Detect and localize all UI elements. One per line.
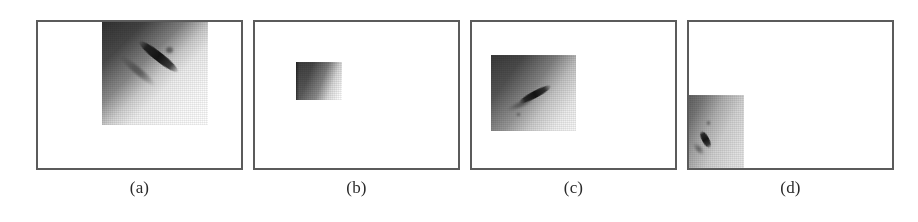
panel-b-image-patch	[296, 62, 342, 100]
panel-a-scan-grain	[102, 21, 208, 125]
panel-a-image-patch	[102, 21, 208, 125]
panel-c-speck	[517, 113, 520, 116]
panel-b-scan-grain	[296, 62, 342, 100]
figure-panel-d	[687, 20, 894, 170]
figure-panel-b	[253, 20, 460, 170]
panel-b-left-edge-shadow	[296, 62, 299, 100]
figure-panel-c	[470, 20, 677, 170]
panel-c-canvas	[472, 22, 675, 168]
panel-b-caption: (b)	[253, 178, 460, 198]
panel-a-canvas	[38, 22, 241, 168]
panel-c-image-patch	[491, 55, 576, 131]
figure-root: (a) (b) (c)	[0, 0, 918, 222]
panel-b-canvas	[255, 22, 458, 168]
panel-c-caption: (c)	[470, 178, 677, 198]
panel-d-caption: (d)	[687, 178, 894, 198]
panel-a-caption: (a)	[36, 178, 243, 198]
panel-d-image-patch	[688, 95, 744, 170]
panel-d-scan-grain	[688, 95, 744, 170]
figure-panel-a	[36, 20, 243, 170]
panel-d-canvas	[689, 22, 892, 168]
